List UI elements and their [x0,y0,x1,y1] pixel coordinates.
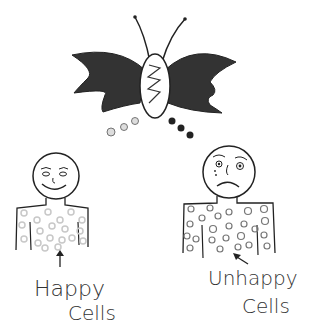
unhappy-label: Unhappy [208,266,297,290]
butterfly [72,15,236,138]
unhappy-figure: Unhappy Cells [183,146,297,318]
wing-right [165,54,236,113]
unhappy-arrow [237,257,248,264]
happy-label-cells: Cells [68,301,116,325]
antenna-left [135,17,150,62]
happy-label: Happy [34,276,105,301]
happy-figure: Happy Cells [16,153,116,325]
unhappy-label-cells: Cells [242,294,290,318]
unhappy-head [203,146,255,198]
happy-cells [19,209,86,251]
unhappy-torso [183,196,275,253]
butterfly-body [140,54,170,118]
wing-left [72,52,145,112]
happy-head [33,153,79,199]
happy-torso [16,198,88,250]
antenna-right [162,19,185,62]
illustration-canvas: Happy Cells Unhappy Cells [0,0,319,333]
